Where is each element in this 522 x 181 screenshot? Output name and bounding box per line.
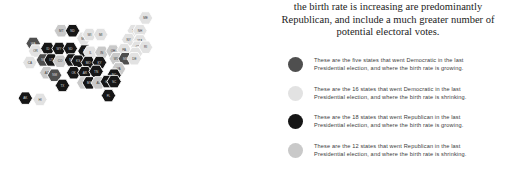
legend-swatch-rep-growing bbox=[288, 114, 303, 129]
legend-line-1: These are the 18 states that went Republ… bbox=[314, 113, 463, 121]
legend-swatch-dem-shrinking bbox=[288, 86, 303, 101]
state-hex-shape bbox=[127, 52, 141, 64]
state-hex-hi[interactable]: HI bbox=[33, 93, 47, 105]
headline-paragraph: the birth rate is increasing are predomi… bbox=[256, 1, 520, 39]
state-hex-shape bbox=[89, 65, 103, 77]
state-hex-shape bbox=[65, 24, 79, 36]
legend-item-rep-growing[interactable]: These are the 18 states that went Republ… bbox=[288, 113, 522, 135]
us-hex-cartogram: MEVTNHWAMTNDMNWIMINYMACTRIORIDWYSDIAILIN… bbox=[0, 0, 258, 181]
state-hex-shape bbox=[101, 89, 115, 101]
state-hex-shape bbox=[23, 56, 37, 68]
state-hex-shape bbox=[93, 28, 107, 40]
headline-line-1: the birth rate is increasing are predomi… bbox=[256, 1, 520, 14]
legend-label-dem-shrinking: These are the 16 states that went Democr… bbox=[314, 85, 467, 101]
state-hex-sc[interactable]: SC bbox=[107, 75, 121, 87]
state-hex-ca[interactable]: CA bbox=[23, 56, 37, 68]
state-hex-tn[interactable]: TN bbox=[89, 65, 103, 77]
state-hex-shape bbox=[55, 79, 69, 91]
state-hex-fl[interactable]: FL bbox=[101, 89, 115, 101]
state-hex-me[interactable]: ME bbox=[138, 12, 152, 24]
state-hex-shape bbox=[63, 42, 77, 54]
headline-line-3: potential electoral votes. bbox=[256, 26, 520, 39]
state-hex-nd[interactable]: ND bbox=[65, 24, 79, 36]
state-hex-shape bbox=[33, 93, 47, 105]
state-hex-shape bbox=[138, 12, 152, 24]
legend-item-rep-shrinking[interactable]: These are the 12 states that went Republ… bbox=[288, 142, 522, 164]
legend-line-2: Presidential election, and where the bir… bbox=[314, 121, 463, 129]
legend-line-1: These are the five states that went Demo… bbox=[314, 56, 464, 64]
state-hex-tx[interactable]: TX bbox=[55, 79, 69, 91]
headline-line-2: Republican, and include a much greater n… bbox=[256, 14, 520, 27]
legend-swatch-dem-growing bbox=[288, 57, 303, 72]
state-hex-shape bbox=[107, 75, 121, 87]
state-hex-shape bbox=[18, 92, 32, 104]
map-legend: These are the five states that went Demo… bbox=[288, 56, 522, 170]
legend-label-rep-shrinking: These are the 12 states that went Republ… bbox=[314, 142, 467, 158]
state-hex-de[interactable]: DE bbox=[127, 52, 141, 64]
legend-label-dem-growing: These are the five states that went Demo… bbox=[314, 56, 464, 72]
legend-item-dem-growing[interactable]: These are the five states that went Demo… bbox=[288, 56, 522, 78]
infographic-root: MEVTNHWAMTNDMNWIMINYMACTRIORIDWYSDIAILIN… bbox=[0, 0, 522, 181]
state-hex-mi[interactable]: MI bbox=[93, 28, 107, 40]
legend-line-2: Presidential election, and where the bir… bbox=[314, 64, 464, 72]
legend-line-1: These are the 16 states that went Democr… bbox=[314, 85, 467, 93]
legend-item-dem-shrinking[interactable]: These are the 16 states that went Democr… bbox=[288, 85, 522, 107]
legend-line-2: Presidential election, and where the bir… bbox=[314, 93, 467, 101]
legend-line-2: Presidential election, and where the bir… bbox=[314, 150, 467, 158]
cartogram-svg: MEVTNHWAMTNDMNWIMINYMACTRIORIDWYSDIAILIN… bbox=[0, 0, 258, 181]
legend-swatch-rep-shrinking bbox=[288, 143, 303, 158]
state-hex-sd[interactable]: SD bbox=[63, 42, 77, 54]
legend-line-1: These are the 12 states that went Republ… bbox=[314, 142, 467, 150]
state-hex-ak[interactable]: AK bbox=[18, 92, 32, 104]
legend-label-rep-growing: These are the 18 states that went Republ… bbox=[314, 113, 463, 129]
